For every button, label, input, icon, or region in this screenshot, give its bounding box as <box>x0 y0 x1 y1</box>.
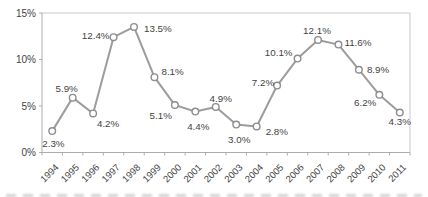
data-point-1996 <box>90 110 97 117</box>
y-axis-label: 10% <box>16 54 36 65</box>
x-axis-label-1994: 1994 <box>38 162 61 185</box>
x-axis-label-1999: 1999 <box>140 162 163 185</box>
data-point-1997 <box>110 34 117 41</box>
data-label-1996: 4.2% <box>97 118 120 129</box>
data-label-2008: 11.6% <box>344 37 371 48</box>
chart-canvas: 0%5%10%15%199419951996199719981999200020… <box>0 0 428 197</box>
x-axis-label-1996: 1996 <box>79 162 102 185</box>
data-point-2000 <box>172 102 179 109</box>
data-point-2003 <box>233 121 240 128</box>
x-axis-label-2010: 2010 <box>365 162 388 185</box>
data-point-2008 <box>335 41 342 48</box>
data-label-2003: 3.0% <box>228 134 251 145</box>
percentage-line-chart: 0%5%10%15%199419951996199719981999200020… <box>0 0 428 197</box>
x-axis-label-2005: 2005 <box>263 162 286 185</box>
data-label-1995: 5.9% <box>55 83 78 94</box>
y-axis-label: 15% <box>16 8 36 19</box>
y-axis-label: 0% <box>22 147 37 158</box>
data-label-2009: 8.9% <box>367 64 390 75</box>
data-point-2010 <box>376 92 383 99</box>
x-axis-label-2001: 2001 <box>181 162 204 185</box>
data-point-1999 <box>151 74 158 81</box>
x-axis-label-1995: 1995 <box>58 162 81 185</box>
data-point-2006 <box>294 55 301 62</box>
data-label-1998: 13.5% <box>144 23 172 34</box>
data-label-2005: 7.2% <box>252 77 275 88</box>
y-axis-label: 5% <box>22 101 37 112</box>
x-axis-label-2000: 2000 <box>161 162 184 185</box>
data-point-2007 <box>315 37 322 44</box>
data-point-2004 <box>253 123 260 130</box>
data-label-2000: 5.1% <box>150 110 173 121</box>
data-label-2001: 4.4% <box>187 121 210 132</box>
data-point-1998 <box>131 24 138 31</box>
x-axis-label-2003: 2003 <box>222 162 245 185</box>
x-axis-label-2008: 2008 <box>324 162 347 185</box>
data-point-2002 <box>212 104 219 111</box>
x-axis-label-1998: 1998 <box>120 162 143 185</box>
data-point-1995 <box>69 94 76 101</box>
x-axis-label-2002: 2002 <box>201 162 224 185</box>
data-label-2004: 2.8% <box>266 126 289 137</box>
data-label-2002: 4.9% <box>210 93 233 104</box>
data-point-2005 <box>274 82 281 89</box>
x-axis-label-2007: 2007 <box>304 162 327 185</box>
x-axis-label-2011: 2011 <box>386 162 408 184</box>
data-point-2001 <box>192 108 199 115</box>
data-label-2007: 12.1% <box>303 25 331 36</box>
data-label-1994: 2.3% <box>42 138 65 149</box>
data-label-1997: 12.4% <box>82 30 110 41</box>
x-axis-label-2009: 2009 <box>345 162 368 185</box>
x-axis-label-1997: 1997 <box>99 162 122 185</box>
x-axis-label-2006: 2006 <box>283 162 306 185</box>
data-label-2011: 4.3% <box>389 116 412 127</box>
data-point-1994 <box>49 128 56 135</box>
data-point-2009 <box>356 66 363 73</box>
x-axis-label-2004: 2004 <box>242 162 265 185</box>
data-label-2006: 10.1% <box>265 47 293 58</box>
data-label-2010: 6.2% <box>354 97 377 108</box>
data-label-1999: 8.1% <box>161 66 184 77</box>
